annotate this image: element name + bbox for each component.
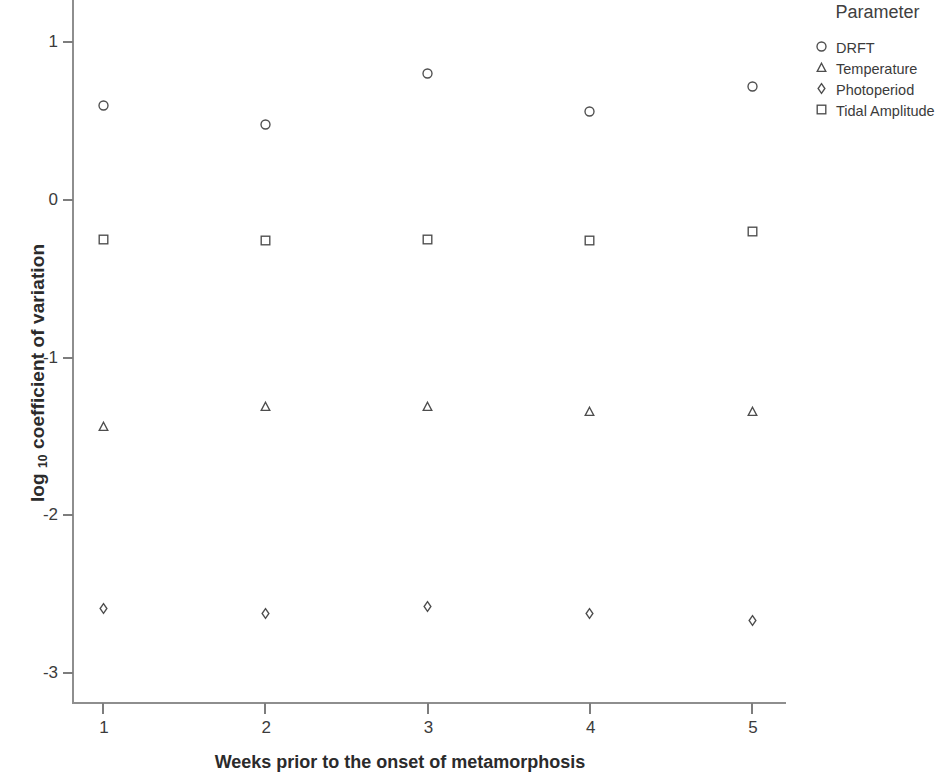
data-point-diamond (421, 600, 434, 613)
x-tick-label: 1 (84, 719, 124, 736)
x-tick-label: 2 (246, 719, 286, 736)
x-axis-label: Weeks prior to the onset of metamorphosi… (0, 752, 800, 773)
data-point-diamond (259, 607, 272, 620)
x-tick-label: 5 (733, 719, 773, 736)
x-tick-mark (589, 703, 591, 714)
legend-item-label: Tidal Amplitude (836, 103, 935, 119)
data-point-triangle (421, 400, 434, 413)
y-tick-label: -2 (18, 506, 58, 523)
data-point-triangle (746, 405, 759, 418)
legend-item-label: Temperature (836, 61, 917, 77)
plot-area (0, 0, 945, 783)
y-tick-mark (63, 672, 73, 674)
data-point-square (421, 233, 434, 246)
diamond-marker-icon (815, 82, 830, 97)
legend-item-drft[interactable]: DRFT (815, 37, 945, 58)
data-point-diamond (97, 602, 110, 615)
data-point-triangle (259, 400, 272, 413)
data-point-triangle (97, 420, 110, 433)
data-point-circle (583, 105, 596, 118)
legend-entries: DRFTTemperaturePhotoperiodTidal Amplitud… (806, 37, 945, 121)
data-point-diamond (746, 614, 759, 627)
data-point-diamond (583, 607, 596, 620)
data-point-circle (97, 99, 110, 112)
y-tick-label: 1 (18, 33, 58, 50)
data-point-circle (746, 80, 759, 93)
legend: Parameter DRFTTemperaturePhotoperiodTida… (806, 2, 945, 121)
data-point-circle (421, 67, 434, 80)
y-tick-mark (63, 357, 73, 359)
y-tick-mark (63, 514, 73, 516)
data-point-square (746, 225, 759, 238)
scatter-chart: log 10 coefficient of variation 10-1-2-3… (0, 0, 945, 783)
data-point-square (259, 234, 272, 247)
y-axis-line (72, 0, 74, 704)
square-marker-icon (815, 103, 830, 118)
data-point-square (583, 234, 596, 247)
data-point-triangle (583, 405, 596, 418)
x-tick-mark (427, 703, 429, 714)
y-tick-label: -3 (18, 664, 58, 681)
y-tick-mark (63, 41, 73, 43)
legend-item-photoperiod[interactable]: Photoperiod (815, 79, 945, 100)
circle-marker-icon (815, 40, 830, 55)
legend-title: Parameter (810, 2, 945, 23)
legend-item-temperature[interactable]: Temperature (815, 58, 945, 79)
x-axis-line (72, 702, 786, 704)
x-tick-mark (751, 703, 753, 714)
y-tick-mark (63, 199, 73, 201)
data-point-square (97, 233, 110, 246)
legend-item-label: DRFT (836, 40, 875, 56)
x-tick-label: 3 (409, 719, 449, 736)
x-tick-mark (102, 703, 104, 714)
legend-item-label: Photoperiod (836, 82, 914, 98)
y-axis-label-subscript: 10 (36, 454, 50, 468)
legend-item-tidal-amplitude[interactable]: Tidal Amplitude (815, 100, 945, 121)
y-tick-label: 0 (18, 191, 58, 208)
x-tick-mark (264, 703, 266, 714)
triangle-marker-icon (815, 61, 830, 76)
y-tick-label: -1 (18, 349, 58, 366)
data-point-circle (259, 118, 272, 131)
y-axis-label-main: log (27, 468, 48, 502)
x-tick-label: 4 (571, 719, 611, 736)
